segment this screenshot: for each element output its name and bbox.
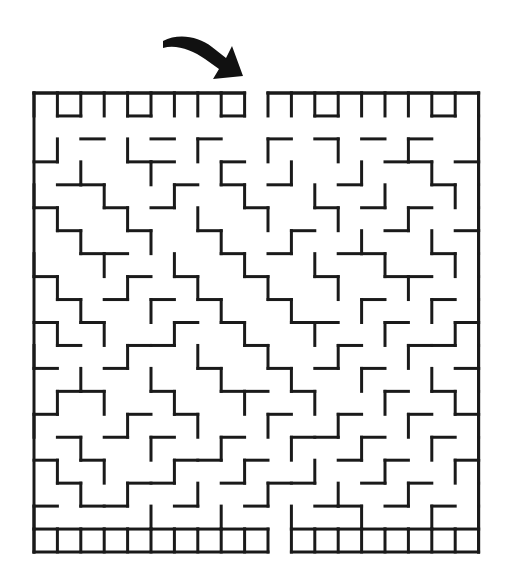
maze-canvas xyxy=(0,0,510,587)
page-background xyxy=(0,0,510,587)
maze-puzzle xyxy=(0,0,510,587)
